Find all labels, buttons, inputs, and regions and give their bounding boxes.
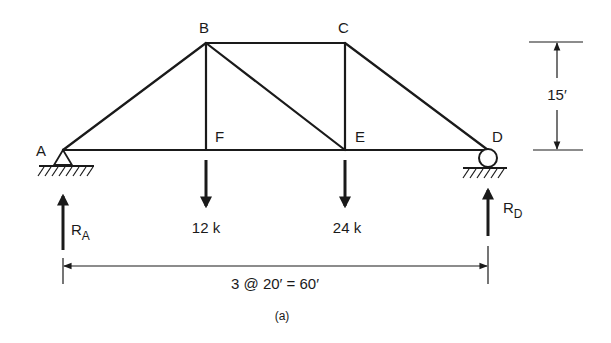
member-be — [206, 43, 345, 150]
member-ab — [63, 43, 206, 150]
truss-diagram: A B C D E F 12 k 24 k RA RD 15′ 3 @ 20′ … — [0, 0, 611, 343]
reaction-label-a: RA — [71, 221, 90, 243]
member-cd — [345, 43, 488, 150]
height-dimension-label: 15′ — [547, 86, 567, 103]
truss-members — [63, 43, 488, 150]
span-dimension: 3 @ 20′ = 60′ — [63, 246, 488, 292]
roller-support-d — [463, 149, 507, 178]
joint-label-b: B — [199, 19, 209, 36]
joint-label-d: D — [492, 128, 503, 145]
reaction-d: RD — [488, 190, 523, 236]
load-label-f: 12 k — [192, 219, 221, 236]
load-e: 24 k — [333, 160, 362, 236]
load-label-e: 24 k — [333, 219, 362, 236]
joint-label-e: E — [355, 128, 365, 145]
joint-label-f: F — [215, 128, 224, 145]
joint-label-a: A — [36, 142, 46, 159]
height-dimension: 15′ — [529, 42, 583, 150]
pin-support-a — [38, 150, 94, 176]
span-dimension-label: 3 @ 20′ = 60′ — [231, 275, 319, 292]
ground-hatch-d — [463, 169, 504, 178]
joint-labels: A B C D E F — [36, 19, 503, 159]
reaction-a: RA — [63, 196, 90, 250]
joint-label-c: C — [338, 19, 349, 36]
load-f: 12 k — [192, 160, 221, 236]
ground-hatch-a — [38, 167, 93, 176]
figure-caption: (a) — [275, 309, 290, 323]
reaction-label-d: RD — [503, 199, 523, 221]
